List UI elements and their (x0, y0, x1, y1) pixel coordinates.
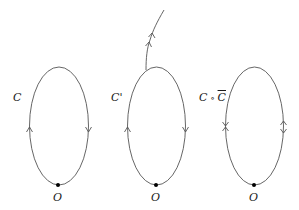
loop-label: C (13, 92, 21, 103)
loop-composite-curve (226, 67, 284, 185)
base-point (252, 183, 256, 187)
base-point-label: O (249, 192, 258, 203)
loop-c-curve (30, 67, 89, 185)
base-point-label: O (151, 192, 160, 203)
base-point-label: O (53, 192, 62, 203)
loop-label: C ∘ C (199, 92, 226, 103)
tail-path (146, 10, 164, 70)
loop-label: C' (111, 92, 122, 103)
compose-operator: ∘ (207, 93, 217, 103)
loop-c (27, 67, 92, 185)
label-part-overlined: C (218, 91, 226, 104)
diagram-canvas (0, 0, 299, 210)
base-point (56, 183, 60, 187)
base-point (154, 183, 158, 187)
loop-c-prime-curve (128, 67, 186, 185)
loop-c-compose-cbar (223, 67, 287, 185)
loop-c-prime (125, 10, 189, 185)
